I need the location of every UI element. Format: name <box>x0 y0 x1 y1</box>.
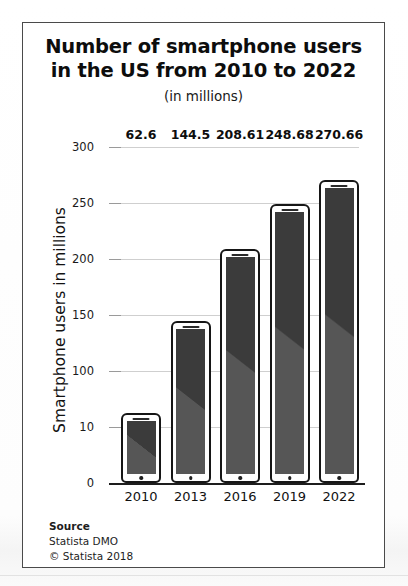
bar-value-2016: 208.61 <box>216 127 264 142</box>
xtick-label-2013: 2013 <box>171 489 211 504</box>
ytick-label-300: 300 <box>72 140 94 154</box>
bar-2022[interactable] <box>319 180 359 483</box>
chart-subtitle: (in millions) <box>23 88 384 104</box>
xtick-label-2019: 2019 <box>270 489 310 504</box>
bar-value-2010: 62.6 <box>126 127 157 142</box>
ytick-label-200: 200 <box>72 252 94 266</box>
phone-home-button-icon <box>238 476 242 480</box>
ytick-label-250: 250 <box>72 196 94 210</box>
x-axis-line <box>109 483 365 485</box>
phone-speaker-icon <box>281 209 298 211</box>
bar-slot-2013: 144.5 <box>171 147 211 483</box>
bar-slot-2022: 270.66 <box>319 147 359 483</box>
bar-2016[interactable] <box>220 249 260 483</box>
bar-value-2019: 248.68 <box>265 127 313 142</box>
xtick-label-2016: 2016 <box>220 489 260 504</box>
phone-home-button-icon <box>189 476 193 480</box>
bar-slot-2019: 248.68 <box>270 147 310 483</box>
bar-2013[interactable] <box>171 321 211 483</box>
phone-screen <box>176 329 205 474</box>
tick-150: 150 <box>109 315 121 316</box>
bar-value-2013: 144.5 <box>171 127 211 142</box>
bar-slot-2010: 62.6 <box>121 147 161 483</box>
bar-series: 62.6 144.5 208.61 <box>121 147 359 483</box>
source-footer: Source Statista DMO © Statista 2018 <box>49 519 133 564</box>
title-block: Number of smartphone users in the US fro… <box>23 35 384 104</box>
phone-screen <box>127 421 156 474</box>
bar-2010[interactable] <box>121 413 161 483</box>
x-axis-labels: 2010 2013 2016 2019 2022 <box>121 489 359 504</box>
source-name: Statista DMO <box>49 534 133 549</box>
y-axis-title: Smartphone users in millions <box>51 195 69 445</box>
phone-speaker-icon <box>232 254 249 256</box>
phone-screen <box>275 212 304 474</box>
phone-home-button-icon <box>288 476 292 480</box>
ytick-label-0: 0 <box>87 476 94 490</box>
plot-area: Smartphone users in millions 300 250 200… <box>23 123 386 523</box>
ytick-label-100: 100 <box>72 364 94 378</box>
bar-2019[interactable] <box>270 204 310 483</box>
phone-home-button-icon <box>337 476 341 480</box>
plot-canvas: 300 250 200 150 100 10 0 <box>121 147 359 483</box>
phone-speaker-icon <box>331 185 348 187</box>
ytick-label-150: 150 <box>72 308 94 322</box>
tick-200: 200 <box>109 259 121 260</box>
phone-screen <box>226 257 255 474</box>
tick-50: 10 <box>109 427 121 428</box>
tick-100: 100 <box>109 371 121 372</box>
tick-300: 300 <box>109 147 121 148</box>
chart-card: Number of smartphone users in the US fro… <box>22 22 385 568</box>
phone-speaker-icon <box>133 418 150 420</box>
ytick-label-50: 10 <box>79 420 94 434</box>
xtick-label-2010: 2010 <box>121 489 161 504</box>
phone-home-button-icon <box>139 476 143 480</box>
page-title: Number of smartphone users in the US fro… <box>33 35 374 83</box>
source-heading: Source <box>49 519 133 534</box>
bar-slot-2016: 208.61 <box>220 147 260 483</box>
source-copyright: © Statista 2018 <box>49 549 133 564</box>
tick-250: 250 <box>109 203 121 204</box>
bar-value-2022: 270.66 <box>315 127 363 142</box>
phone-speaker-icon <box>182 326 199 328</box>
xtick-label-2022: 2022 <box>319 489 359 504</box>
phone-screen <box>325 188 354 474</box>
